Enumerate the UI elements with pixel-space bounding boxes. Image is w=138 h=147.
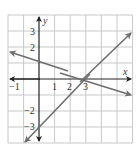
y-tick-3: 3 [30, 26, 35, 37]
y-tick-neg2: −2 [24, 105, 35, 116]
coordinate-plane: y x −1 1 2 3 3 2 −2 −3 [0, 0, 138, 147]
x-tick-2: 2 [67, 81, 72, 92]
x-tick-neg1: −1 [9, 81, 20, 92]
x-tick-1: 1 [52, 81, 57, 92]
increasing-line-left [25, 74, 90, 142]
x-tick-3: 3 [83, 81, 88, 92]
y-axis-label: y [42, 15, 48, 26]
y-tick-neg3: −3 [24, 121, 35, 132]
y-tick-2: 2 [30, 42, 35, 53]
x-axis-label: x [122, 66, 128, 77]
